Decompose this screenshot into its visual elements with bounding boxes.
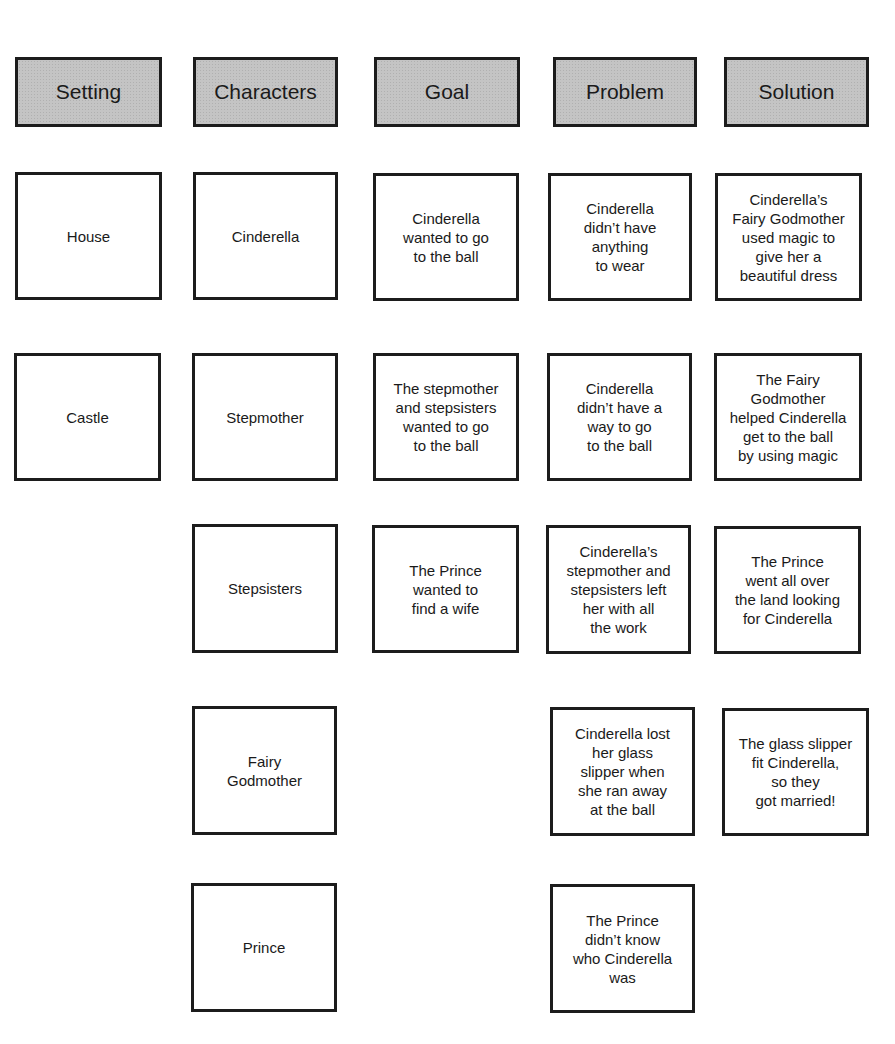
goal-card: The Prince wanted to find a wife — [372, 525, 519, 653]
goal-card: Cinderella wanted to go to the ball — [373, 173, 519, 301]
setting-card: House — [15, 172, 162, 300]
problem-card: Cinderella lost her glass slipper when s… — [550, 707, 695, 836]
header-setting: Setting — [15, 57, 162, 127]
character-card: Prince — [191, 883, 337, 1012]
character-card: Fairy Godmother — [192, 706, 337, 835]
solution-card: The glass slipper fit Cinderella, so the… — [722, 708, 869, 836]
header-characters: Characters — [193, 57, 338, 127]
header-problem: Problem — [553, 57, 697, 127]
header-solution: Solution — [724, 57, 869, 127]
problem-card: The Prince didn’t know who Cinderella wa… — [550, 884, 695, 1013]
character-card: Cinderella — [193, 172, 338, 300]
setting-card: Castle — [14, 353, 161, 481]
problem-card: Cinderella didn’t have a way to go to th… — [547, 353, 692, 481]
header-goal: Goal — [374, 57, 520, 127]
character-card: Stepsisters — [192, 524, 338, 653]
solution-card: Cinderella’s Fairy Godmother used magic … — [715, 173, 862, 301]
problem-card: Cinderella’s stepmother and stepsisters … — [546, 525, 691, 654]
problem-card: Cinderella didn’t have anything to wear — [548, 173, 692, 301]
goal-card: The stepmother and stepsisters wanted to… — [373, 353, 519, 481]
solution-card: The Prince went all over the land lookin… — [714, 526, 861, 654]
solution-card: The Fairy Godmother helped Cinderella ge… — [714, 353, 862, 481]
character-card: Stepmother — [192, 353, 338, 481]
